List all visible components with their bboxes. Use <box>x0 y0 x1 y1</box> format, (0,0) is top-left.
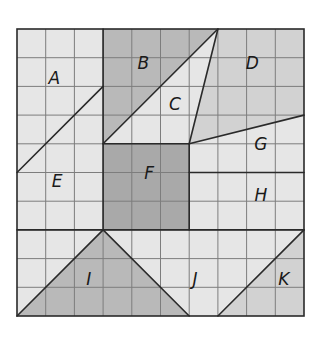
label-f: F <box>144 163 154 183</box>
label-e: E <box>52 171 63 191</box>
label-k: K <box>278 269 291 289</box>
label-d: D <box>246 53 259 73</box>
label-a: A <box>47 68 60 88</box>
label-b: B <box>137 53 149 73</box>
grid-diagram: ABCDEFGHIJK <box>0 0 322 338</box>
label-i: I <box>86 269 91 289</box>
label-g: G <box>254 134 267 154</box>
label-c: C <box>169 94 181 114</box>
region-f <box>103 144 189 230</box>
label-h: H <box>255 185 268 205</box>
